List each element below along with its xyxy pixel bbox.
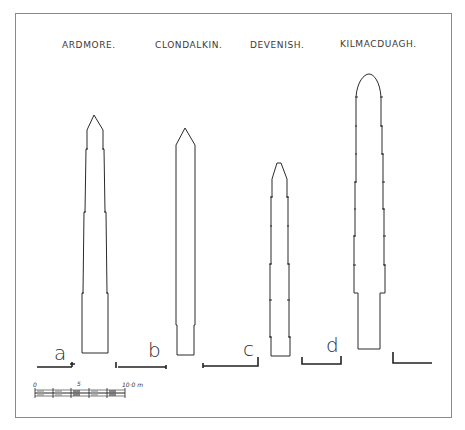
tower-ardmore — [82, 115, 108, 353]
label-d: d — [326, 333, 339, 357]
label-a: a — [54, 341, 66, 365]
tower-clondalkin — [176, 128, 195, 355]
label-b: b — [148, 338, 161, 362]
ground-lines — [37, 352, 432, 369]
scale-label-0: 0 — [33, 381, 37, 388]
scale-label-10m: 10·0 m — [122, 381, 143, 388]
scale-bar: 0 5 10·0 m — [33, 380, 143, 398]
title-kilmacduagh: KILMACDUAGH. — [340, 39, 417, 49]
scale-label-5: 5 — [77, 380, 81, 387]
tower-kilmacduagh — [353, 74, 386, 349]
label-c: c — [243, 337, 254, 361]
title-ardmore: ARDMORE. — [62, 40, 116, 50]
round-towers-drawing: ARDMORE. CLONDALKIN. DEVENISH. KILMACDUA… — [0, 0, 465, 430]
title-devenish: DEVENISH. — [250, 40, 304, 50]
title-clondalkin: CLONDALKIN. — [155, 40, 223, 50]
tower-devenish — [269, 163, 291, 356]
